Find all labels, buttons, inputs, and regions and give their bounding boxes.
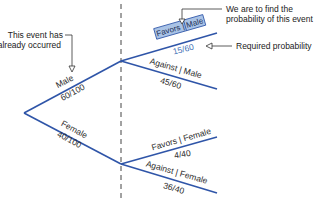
- annotation-find-line1: We are to find the: [226, 4, 293, 14]
- fraction-favors-female: 4/40: [173, 148, 191, 161]
- fraction-favors-male: 15/60: [172, 42, 195, 57]
- annotation-occurred-line1: This event has: [8, 30, 63, 40]
- arrow-left-icon: [206, 43, 212, 49]
- highlight-favors-male: Favors | Male: [154, 15, 206, 40]
- probability-tree-diagram: Male 60/100 Female 40/100 Favors | Male …: [0, 0, 316, 202]
- annotation-find-line2: probability of this event: [226, 14, 314, 24]
- arrow-down-icon: [69, 66, 75, 72]
- annotation-occurred-line2: already occurred: [0, 40, 61, 50]
- branch-favors-male: [121, 33, 217, 61]
- annotation-occurred-pointer: [65, 35, 72, 66]
- annotation-required: Required probability: [236, 41, 312, 51]
